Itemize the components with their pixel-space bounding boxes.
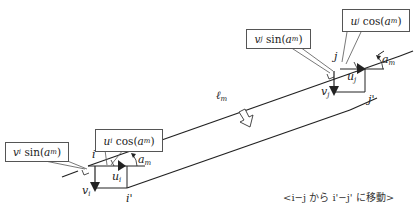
- callout-close: ): [298, 33, 302, 45]
- callout-uj-cos: uj cos(am): [342, 9, 410, 32]
- node-i-prime-label: i': [126, 192, 133, 205]
- callout-arg-sub: m: [292, 35, 299, 43]
- callout-var-sub: j: [357, 17, 359, 25]
- vj-arrowhead: [329, 86, 339, 96]
- callout-leader-uj-cos: [342, 32, 347, 62]
- callout-func: cos(: [116, 135, 138, 147]
- callout-func: sin(: [266, 33, 286, 45]
- ui-label: ui: [112, 170, 121, 184]
- callout-leader-vj-sin-2: [300, 47, 333, 71]
- callout-arg-sub: m: [391, 17, 398, 25]
- caption: <i−j から i'−j' に移動>: [283, 189, 394, 204]
- callout-close: ): [150, 135, 154, 147]
- angle-arrow-i: [131, 153, 136, 158]
- node-j-label: j: [334, 50, 337, 63]
- right-angle-mark-j: [327, 74, 334, 79]
- callout-arg-sub: m: [144, 137, 151, 145]
- vj-sub: j: [327, 91, 329, 99]
- callout-var: u: [103, 135, 110, 147]
- callout-leader-ui-cos: [105, 150, 107, 165]
- vi-sub: i: [88, 190, 90, 198]
- uj-label: uj: [347, 70, 356, 84]
- callout-var-sub: i: [19, 148, 21, 156]
- movement-direction-arrow: [239, 109, 253, 127]
- callout-leader-uj-cos-2: [346, 32, 361, 64]
- callout-var-sub: j: [260, 35, 262, 43]
- right-angle-mark-j-2: [354, 62, 357, 68]
- callout-close: ): [57, 146, 61, 158]
- callout-vi-sin: vi sin(am): [5, 142, 69, 162]
- angle-label-j: am: [382, 53, 395, 67]
- right-angle-mark-i: [82, 170, 89, 175]
- angle-label-i: am: [138, 153, 151, 167]
- angle-j-sub: m: [389, 59, 396, 67]
- angle-i-sub: m: [145, 159, 152, 167]
- callout-arg-sub: m: [50, 148, 57, 156]
- node-j-prime-label: j': [368, 93, 374, 106]
- vj-label: vj: [321, 85, 329, 99]
- member-dashed-extension-right: [400, 51, 413, 56]
- callout-var-sub: i: [110, 137, 112, 145]
- callout-leader-vj-sin: [290, 47, 330, 73]
- node-i-label: i: [92, 148, 96, 161]
- callout-vj-sin: vj sin(am): [246, 29, 311, 49]
- callout-func: sin(: [24, 146, 44, 158]
- uj-sub: j: [354, 76, 356, 84]
- member-sub: m: [221, 95, 228, 103]
- callout-func: cos(: [363, 15, 385, 27]
- member-label: ℓm: [216, 89, 227, 103]
- ui-sub: i: [119, 176, 121, 184]
- vi-arrowhead: [90, 182, 100, 192]
- member-dashed-extension-left: [62, 171, 78, 177]
- vi-label: vi: [82, 184, 90, 198]
- callout-ui-cos: ui cos(am): [95, 129, 163, 152]
- callout-close: ): [397, 15, 401, 27]
